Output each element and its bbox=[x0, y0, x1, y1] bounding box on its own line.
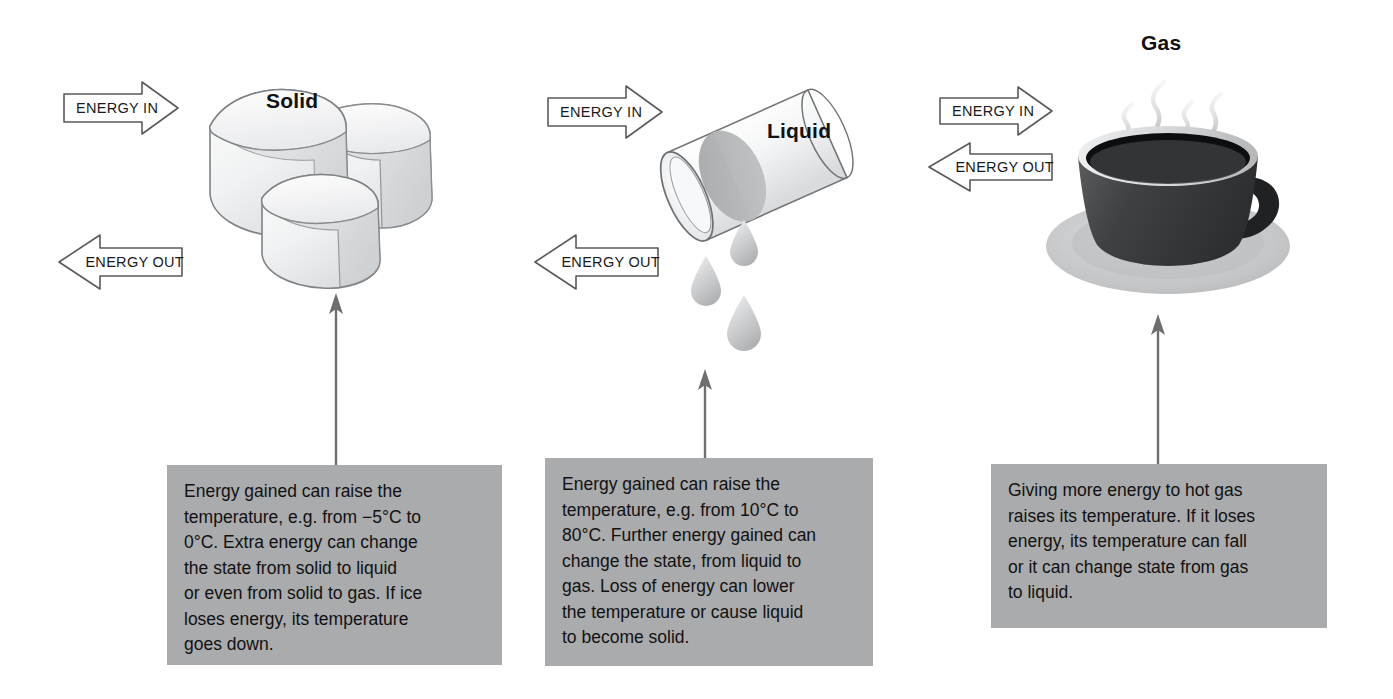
connector-arrow-liquid bbox=[696, 368, 714, 460]
energy-out-label-solid: ENERGY OUT bbox=[56, 232, 196, 292]
energy-out-arrow-solid: ENERGY OUT bbox=[56, 232, 184, 292]
energy-in-label-solid: ENERGY IN bbox=[62, 80, 194, 136]
state-label-liquid: Liquid bbox=[767, 119, 831, 143]
energy-out-arrow-gas: ENERGY OUT bbox=[926, 140, 1054, 194]
connector-arrow-solid bbox=[327, 292, 345, 467]
diagram-canvas: ENERGY IN ENERGY OUT bbox=[0, 0, 1393, 699]
caption-box-solid: Energy gained can raise the temperature,… bbox=[167, 465, 502, 665]
caption-box-liquid: Energy gained can raise the temperature,… bbox=[545, 458, 873, 666]
coffee-cup-illustration bbox=[1040, 50, 1300, 320]
state-label-solid: Solid bbox=[266, 89, 318, 113]
ice-cubes-illustration bbox=[196, 78, 456, 303]
energy-out-arrow-liquid: ENERGY OUT bbox=[532, 232, 660, 292]
caption-box-gas: Giving more energy to hot gas raises its… bbox=[991, 464, 1327, 628]
energy-in-arrow-solid: ENERGY IN bbox=[62, 80, 180, 136]
energy-in-arrow-gas: ENERGY IN bbox=[938, 85, 1054, 137]
connector-arrow-gas bbox=[1149, 313, 1167, 465]
state-label-gas: Gas bbox=[1141, 31, 1181, 55]
